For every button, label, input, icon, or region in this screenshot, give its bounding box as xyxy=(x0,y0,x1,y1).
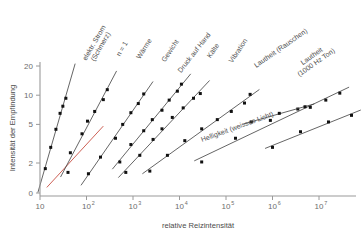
data-point xyxy=(93,110,96,113)
data-point xyxy=(324,99,327,102)
data-point xyxy=(278,112,281,115)
svg-text:10: 10 xyxy=(315,202,324,211)
data-point xyxy=(64,97,67,100)
x-axis-title: relative Reizintensität xyxy=(162,221,235,230)
data-point xyxy=(121,123,124,126)
series-line-w-rme xyxy=(61,71,117,177)
curve-label-elektr-strom: elektr. Strom(Schmerz) xyxy=(81,24,114,66)
data-point xyxy=(137,102,140,105)
svg-text:Vibration: Vibration xyxy=(227,37,248,64)
data-point xyxy=(59,112,62,115)
curve-label-n-gleich-1: n = 1 xyxy=(115,40,129,57)
x-tick-label: 104 xyxy=(175,200,188,211)
curve-label-vibration: Vibration xyxy=(227,37,248,64)
svg-text:Gewicht: Gewicht xyxy=(160,38,180,63)
data-point xyxy=(61,105,64,108)
x-tick-label: 105 xyxy=(222,200,235,211)
data-point xyxy=(54,128,57,131)
data-point xyxy=(271,146,274,149)
data-point xyxy=(183,139,186,142)
data-point xyxy=(124,171,127,174)
svg-text:Helligkeit (weisses Licht): Helligkeit (weisses Licht) xyxy=(200,110,275,144)
data-point xyxy=(99,156,102,159)
data-point xyxy=(129,143,132,146)
data-point xyxy=(299,130,302,133)
data-point xyxy=(176,90,179,93)
y-tick-label: 5 xyxy=(29,120,34,129)
data-point xyxy=(66,171,69,174)
data-point xyxy=(160,127,163,130)
data-point xyxy=(102,98,105,101)
data-point xyxy=(200,160,203,163)
y-axis-title: Intensität der Empfindung xyxy=(8,85,17,172)
data-point xyxy=(216,118,219,121)
data-point xyxy=(269,119,272,122)
series-line-n-gleich-1 xyxy=(47,126,104,187)
svg-text:10: 10 xyxy=(222,202,231,211)
svg-text:10: 10 xyxy=(175,202,184,211)
data-point xyxy=(80,132,83,135)
data-point xyxy=(106,88,109,91)
curve-label-lautheit-1000hz: Lautheit(1000 Hz Ton) xyxy=(292,41,337,79)
x-tick-label: 102 xyxy=(82,200,95,211)
data-point xyxy=(243,102,246,105)
curve-label-gewicht: Gewicht xyxy=(160,38,180,63)
x-tick-label: 10 xyxy=(36,202,45,211)
data-point xyxy=(200,127,203,130)
data-point xyxy=(338,92,341,95)
data-point xyxy=(118,160,121,163)
y-tick-label: 20 xyxy=(24,62,33,71)
curve-label-waerme: Wärme xyxy=(135,37,153,60)
svg-text:10: 10 xyxy=(82,202,91,211)
data-point xyxy=(148,170,151,173)
data-point xyxy=(160,109,163,112)
data-point xyxy=(249,93,252,96)
data-point xyxy=(49,146,52,149)
x-tick-label: 103 xyxy=(129,200,142,211)
svg-text:10: 10 xyxy=(268,202,277,211)
data-point xyxy=(86,120,89,123)
svg-text:3: 3 xyxy=(138,200,141,206)
y-tick-label: 0 xyxy=(29,189,34,198)
data-point xyxy=(327,120,330,123)
data-point xyxy=(151,118,154,121)
x-tick-label: 106 xyxy=(268,200,281,211)
stevens-power-law-chart: 101021031041051061070251020 elektr. Stro… xyxy=(0,0,361,238)
data-point xyxy=(87,172,90,175)
data-point xyxy=(230,110,233,113)
svg-text:2: 2 xyxy=(92,200,95,206)
data-point xyxy=(166,154,169,157)
x-tick-label: 107 xyxy=(315,200,328,211)
data-point xyxy=(129,111,132,114)
svg-text:7: 7 xyxy=(324,200,327,206)
series-line-lautheit-1000-hz-ton xyxy=(265,110,361,148)
data-point xyxy=(350,114,353,117)
data-point xyxy=(114,137,117,140)
y-tick-label: 2 xyxy=(29,159,34,168)
chart-canvas: 101021031041051061070251020 elektr. Stro… xyxy=(0,0,361,238)
series-line-druck-auf-hand xyxy=(112,74,190,169)
data-point xyxy=(192,97,195,100)
data-point xyxy=(69,151,72,154)
curve-label-helligkeit: Helligkeit (weisses Licht) xyxy=(200,110,275,144)
data-point xyxy=(304,105,307,108)
data-point xyxy=(168,99,171,102)
data-point xyxy=(234,137,237,140)
svg-text:10: 10 xyxy=(36,202,45,211)
axis-layer: 101021031041051061070251020 xyxy=(24,62,356,211)
svg-text:n = 1: n = 1 xyxy=(115,40,129,57)
svg-text:Kälte: Kälte xyxy=(206,42,221,59)
data-point xyxy=(138,154,141,157)
data-point xyxy=(180,83,183,86)
data-point xyxy=(142,129,145,132)
svg-text:4: 4 xyxy=(185,200,188,206)
svg-text:Wärme: Wärme xyxy=(135,37,153,60)
series-layer xyxy=(38,64,361,193)
y-tick-label: 10 xyxy=(24,91,33,100)
data-point xyxy=(182,106,185,109)
data-point xyxy=(199,92,202,95)
series-line-k-lte xyxy=(118,80,209,177)
data-point xyxy=(44,167,47,170)
data-point xyxy=(309,106,312,109)
svg-text:5: 5 xyxy=(231,200,234,206)
